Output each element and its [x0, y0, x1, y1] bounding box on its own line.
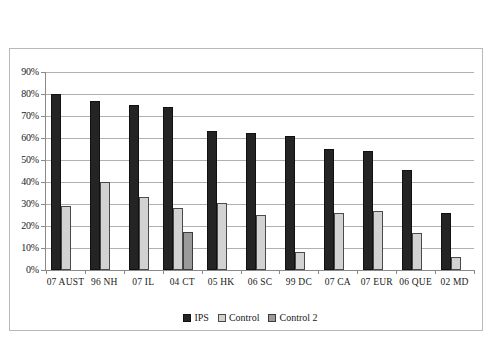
y-axis-tick-label: 80% — [3, 89, 39, 99]
x-axis-tick — [85, 270, 86, 274]
x-axis-category-label: 96 NH — [85, 277, 124, 288]
bar-control — [295, 252, 305, 270]
legend-item-ips: IPS — [183, 312, 208, 323]
x-axis-tick — [318, 270, 319, 274]
y-axis-tick-label: 70% — [3, 111, 39, 121]
x-axis-category-label: 07 IL — [124, 277, 163, 288]
bar-control — [100, 182, 110, 270]
y-axis-tick-label: 90% — [3, 67, 39, 77]
x-axis-category-label: 07 EUR — [357, 277, 396, 288]
y-axis-tick — [41, 94, 46, 95]
y-axis-tick-label: 10% — [3, 243, 39, 253]
bar-ips — [90, 101, 100, 270]
y-axis-tick — [41, 138, 46, 139]
bar-ips — [285, 136, 295, 270]
bar-control — [173, 208, 183, 270]
y-axis-tick-label: 40% — [3, 177, 39, 187]
bar-control — [412, 233, 422, 270]
y-axis-tick-label: 20% — [3, 221, 39, 231]
x-axis-tick — [163, 270, 164, 274]
legend-swatch-ips — [183, 314, 191, 322]
y-axis-tick-label: 60% — [3, 133, 39, 143]
bar-ips — [207, 131, 217, 270]
x-axis-tick — [474, 270, 475, 274]
x-axis-category-label: 07 AUST — [46, 277, 85, 288]
bar-control — [373, 211, 383, 270]
y-axis-tick — [41, 72, 46, 73]
legend-item-control2: Control 2 — [268, 312, 317, 323]
bar-control — [256, 215, 266, 270]
plot-area — [46, 72, 474, 270]
x-axis-category-label: 06 SC — [241, 277, 280, 288]
bar-control — [61, 206, 71, 270]
x-axis-tick — [241, 270, 242, 274]
gridline — [46, 116, 474, 117]
gridline — [46, 72, 474, 73]
y-axis-tick — [41, 116, 46, 117]
x-axis-tick — [46, 270, 47, 274]
x-axis-category-label: 04 CT — [163, 277, 202, 288]
chart-legend: IPSControlControl 2 — [0, 312, 501, 323]
bar-ips — [363, 151, 373, 270]
y-axis-tick — [41, 248, 46, 249]
bar-control — [217, 203, 227, 270]
bar-ips — [441, 213, 451, 270]
bar-ips — [129, 105, 139, 270]
x-axis-tick — [202, 270, 203, 274]
y-axis-tick-label: 30% — [3, 199, 39, 209]
bar-control — [334, 213, 344, 270]
bar-ips — [324, 149, 334, 270]
gridline — [46, 94, 474, 95]
legend-swatch-control — [218, 314, 226, 322]
bar-ips — [402, 170, 412, 270]
x-axis-category-label: 05 HK — [202, 277, 241, 288]
y-axis-tick — [41, 182, 46, 183]
gridline — [46, 160, 474, 161]
y-axis-labels: 90%80%70%60%50%40%30%20%10%0% — [0, 0, 39, 352]
y-axis-tick-label: 0% — [3, 265, 39, 275]
x-axis-category-label: 99 DC — [279, 277, 318, 288]
gridline — [46, 138, 474, 139]
x-axis-category-label: 02 MD — [435, 277, 474, 288]
legend-item-control: Control — [218, 312, 260, 323]
legend-label: Control 2 — [279, 312, 317, 323]
x-axis-tick — [124, 270, 125, 274]
bar-chart: 90%80%70%60%50%40%30%20%10%0% IPSControl… — [0, 0, 501, 352]
x-axis-category-label: 06 QUE — [396, 277, 435, 288]
y-axis-tick — [41, 204, 46, 205]
x-axis-tick — [357, 270, 358, 274]
legend-label: IPS — [194, 312, 208, 323]
gridline — [46, 270, 474, 271]
bar-ips — [163, 107, 173, 270]
y-axis-tick — [41, 160, 46, 161]
y-axis-tick-label: 50% — [3, 155, 39, 165]
x-axis-tick — [396, 270, 397, 274]
bar-control — [139, 197, 149, 270]
x-axis-tick — [279, 270, 280, 274]
x-axis-tick — [435, 270, 436, 274]
x-axis-category-label: 07 CA — [318, 277, 357, 288]
legend-swatch-control2 — [268, 314, 276, 322]
legend-label: Control — [229, 312, 260, 323]
bar-control2 — [183, 232, 193, 271]
bar-ips — [51, 94, 61, 270]
y-axis-tick — [41, 226, 46, 227]
bar-ips — [246, 133, 256, 271]
bar-control — [451, 257, 461, 270]
